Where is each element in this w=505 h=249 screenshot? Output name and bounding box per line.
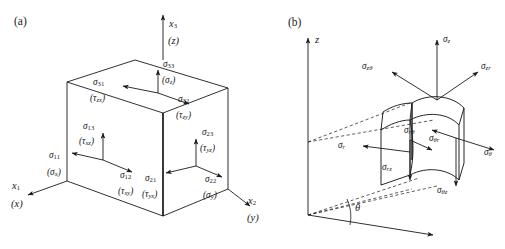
cylindrical-wedge-element [381,97,464,185]
stress-label-sigma-33: σ33 [163,60,174,70]
stress-element-figure: (a) x3 (z) x1 (x) x2 (y) σ33 (σz) σ31 (τ… [0,0,505,249]
stress-label-sigma-13: σ13 [83,122,94,132]
stress-label-sigma-r-z: σrz [382,163,392,173]
axis-label-z: z [315,35,319,46]
stress-label-sigma-r: σr [338,141,345,151]
stress-label-sigma-theta-r: σθr [429,134,439,144]
stress-label-sigma-11: σ11 [49,151,60,161]
stress-label-sigma-31: σ31 [93,78,104,88]
stress-alt-label-tau-zx: (τzx) [90,94,105,104]
stress-label-sigma-theta: σθ [484,148,492,158]
axis-label-x1: x1 [12,181,20,192]
axis-alt-label-x2: (y) [247,213,259,224]
stress-label-sigma-z-theta: σzθ [362,62,372,72]
stress-alt-label-tau-zy: (τzy) [176,111,191,121]
radial-guide-lines [308,103,437,215]
stress-label-sigma-21: σ21 [145,174,156,184]
stress-alt-label-sigma-z: (σz) [162,76,175,86]
stress-label-sigma-z-r: σzr [481,62,491,72]
stress-label-sigma-23: σ23 [202,128,213,138]
stress-label-sigma-z: σz [443,35,450,45]
stress-alt-label-tau-yx: (τyx) [142,190,157,200]
stress-label-sigma-32: σ32 [178,95,189,105]
axis-x1 [28,181,67,195]
stress-alt-label-tau-xy: (τxy) [118,187,133,197]
stress-label-sigma-22: σ22 [205,175,216,185]
axis-label-x3: x3 [169,19,177,30]
panel-b-label: (b) [288,17,301,29]
theta-baseline [308,215,433,235]
stress-alt-label-tau-xz: (τxz) [79,137,94,147]
stress-alt-label-sigma-x: (σx) [47,168,61,178]
stress-label-sigma-r-theta: σrθ [404,126,414,136]
axis-alt-label-x1: (x) [11,199,23,210]
axis-x2 [228,189,250,206]
stress-alt-label-tau-yz: (τyz) [200,144,215,154]
stress-label-sigma-12: σ12 [120,171,131,181]
panel-a-label: (a) [14,16,27,28]
theta-angle-label: θ [355,203,360,214]
stress-label-sigma-theta-z: σθz [437,186,447,196]
axis-label-x2: x2 [248,196,256,207]
stress-alt-label-sigma-y: (σy) [203,191,217,201]
axis-alt-label-x3: (z) [168,36,179,47]
